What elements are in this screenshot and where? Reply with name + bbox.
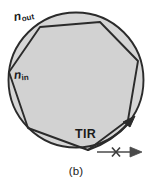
figure-caption: (b) (0, 165, 152, 177)
label-n-in: nin (13, 68, 29, 83)
label-tir: TIR (75, 128, 96, 141)
transmitted-arrowhead-icon (130, 147, 142, 157)
figure-total-internal-reflection: nout nin TIR (b) (0, 0, 152, 183)
diagram-canvas (0, 0, 152, 183)
label-n-in-subscript: in (21, 73, 29, 83)
